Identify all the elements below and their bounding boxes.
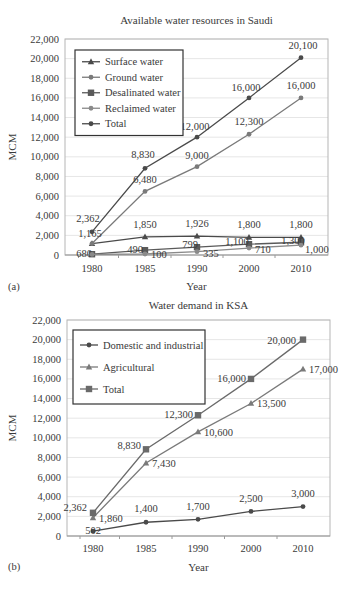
y-tick-label: 18,000: [30, 73, 59, 84]
y-tick-label: 22,000: [32, 315, 61, 326]
data-label: 1,800: [237, 219, 261, 230]
data-point-marker-icon: [299, 55, 304, 60]
data-label: 1,400: [134, 503, 158, 514]
y-tick-label: 12,000: [32, 413, 61, 424]
data-label: 710: [255, 244, 271, 255]
data-point-marker-icon: [143, 252, 148, 257]
x-tick-label: 2000: [239, 263, 260, 274]
data-label: 17,000: [309, 364, 338, 375]
legend-marker-icon: [89, 121, 94, 126]
series-surface-water: 1,8501,9261,8001,800: [89, 218, 313, 246]
data-label: 10,600: [204, 427, 233, 438]
y-tick-label: 20,000: [32, 334, 61, 345]
legend-marker-icon: [88, 90, 94, 96]
y-tick-label: 2,000: [35, 230, 59, 241]
data-label: 1,000: [305, 244, 329, 255]
data-label: 6,480: [133, 174, 157, 185]
data-label: 8,830: [117, 440, 141, 451]
data-label: 16,000: [287, 80, 316, 91]
y-tick-label: 16,000: [30, 92, 59, 103]
data-point-marker-icon: [301, 504, 306, 509]
data-point-marker-icon: [90, 252, 95, 257]
data-label: 1,860: [99, 513, 123, 524]
data-label: 3,000: [291, 488, 315, 499]
data-point-marker-icon: [299, 96, 304, 101]
x-tick-label: 2010: [293, 543, 314, 554]
data-label: 335: [203, 248, 219, 259]
data-point-marker-icon: [300, 366, 306, 372]
x-axis-label: Year: [188, 561, 209, 573]
x-tick-label: 1980: [82, 263, 103, 274]
legend: Surface waterGround waterDesalinated wat…: [75, 50, 183, 136]
data-label: 16,000: [232, 82, 261, 93]
data-label: 2,500: [239, 493, 263, 504]
legend-entry: Domestic and industrial: [103, 340, 203, 351]
legend-entry: Agricultural: [103, 362, 154, 373]
y-tick-label: 8,000: [37, 452, 61, 463]
data-point-marker-icon: [90, 241, 95, 246]
chart-title: Available water resources in Saudi: [120, 14, 273, 26]
legend-entry: Ground water: [105, 72, 164, 83]
x-tick-label: 1985: [136, 543, 157, 554]
y-tick-label: 10,000: [30, 151, 59, 162]
data-point-marker-icon: [195, 164, 200, 169]
y-tick-label: 18,000: [32, 354, 61, 365]
data-point-marker-icon: [90, 229, 95, 234]
data-label: 12,300: [164, 409, 193, 420]
data-point-marker-icon: [248, 400, 254, 406]
y-tick-label: 0: [54, 250, 59, 261]
data-label: 2,362: [76, 213, 100, 224]
data-label: 1,800: [289, 219, 313, 230]
x-tick-label: 1990: [187, 263, 208, 274]
data-label: 16,000: [217, 373, 246, 384]
data-point-marker-icon: [196, 517, 201, 522]
panel-label: (b): [8, 561, 21, 573]
y-tick-label: 0: [56, 531, 61, 542]
data-label: 20,100: [289, 40, 318, 51]
legend-marker-icon: [89, 106, 94, 111]
legend-entry: Total: [103, 384, 125, 395]
data-point-marker-icon: [247, 132, 252, 137]
data-point-marker-icon: [195, 412, 201, 418]
data-point-marker-icon: [143, 460, 149, 466]
y-tick-label: 10,000: [32, 432, 61, 443]
legend-entry: Total: [105, 118, 127, 129]
legend-marker-icon: [86, 386, 92, 392]
x-tick-label: 2010: [291, 263, 312, 274]
x-axis-label: Year: [186, 280, 207, 292]
x-tick-label: 1990: [188, 543, 209, 554]
x-tick-label: 2000: [241, 543, 262, 554]
x-tick-label: 1985: [135, 263, 156, 274]
x-tick-label: 1980: [83, 543, 104, 554]
y-tick-label: 8,000: [35, 171, 59, 182]
y-tick-label: 4,000: [37, 491, 61, 502]
data-point-marker-icon: [248, 376, 254, 382]
y-tick-label: 14,000: [32, 393, 61, 404]
data-label: 12,300: [235, 116, 264, 127]
legend-entry: Reclaimed water: [105, 103, 176, 114]
legend-marker-icon: [87, 343, 92, 348]
data-label: 9,000: [185, 150, 209, 161]
data-label: 1,926: [185, 218, 209, 229]
data-label: 100: [151, 249, 167, 260]
y-axis-label: MCM: [6, 133, 18, 160]
data-point-marker-icon: [90, 510, 96, 516]
data-label: 1,100: [225, 236, 249, 247]
data-label: 12,000: [181, 121, 210, 132]
data-label: 13,500: [257, 398, 286, 409]
data-label: 502: [85, 525, 101, 536]
data-label: 2,362: [63, 502, 87, 513]
data-label: 1,700: [186, 501, 210, 512]
legend-marker-icon: [89, 75, 94, 80]
data-label: 8,830: [131, 149, 155, 160]
data-label: 20,000: [267, 335, 296, 346]
data-label: 799: [182, 239, 198, 250]
data-point-marker-icon: [143, 166, 148, 171]
panel-label: (a): [8, 281, 20, 293]
chart-available-water-resources: Available water resources in Saudi02,000…: [0, 0, 354, 295]
y-tick-label: 4,000: [35, 210, 59, 221]
y-tick-label: 20,000: [30, 53, 59, 64]
y-axis-label: MCM: [6, 414, 18, 441]
data-point-marker-icon: [247, 246, 252, 251]
data-point-marker-icon: [247, 96, 252, 101]
